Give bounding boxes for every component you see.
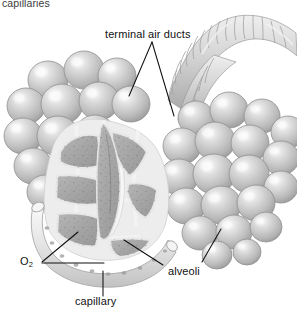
label-capillary: capillary bbox=[75, 296, 116, 307]
cutaway-cross-section bbox=[44, 119, 169, 260]
label-terminal-air-ducts: terminal air ducts bbox=[105, 29, 191, 40]
label-oxygen: O2 bbox=[20, 256, 33, 268]
label-oxygen-subscript: 2 bbox=[29, 260, 33, 269]
illustration-canvas: capillaries terminal air ducts alveoli c… bbox=[0, 0, 297, 319]
label-alveoli: alveoli bbox=[168, 266, 200, 277]
label-capillaries-clipped: capillaries bbox=[2, 0, 50, 9]
leader-terminal-air-ducts-right bbox=[152, 42, 174, 116]
label-oxygen-symbol: O bbox=[20, 255, 29, 267]
anatomy-artwork bbox=[0, 0, 297, 319]
right-alveolar-cluster bbox=[160, 92, 297, 269]
